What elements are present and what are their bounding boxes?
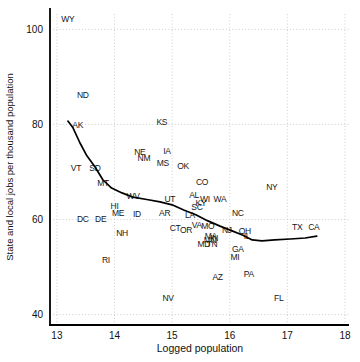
state-label-ME: ME xyxy=(112,208,125,218)
y-tick-label-100: 100 xyxy=(26,24,43,35)
state-label-RI: RI xyxy=(102,255,110,265)
state-label-MS: MS xyxy=(157,158,170,168)
state-label-VT: VT xyxy=(71,163,81,173)
state-label-NM: NM xyxy=(138,153,151,163)
state-label-TN: TN xyxy=(207,239,218,249)
state-label-AZ: AZ xyxy=(213,272,223,282)
state-label-WY: WY xyxy=(61,14,75,24)
y-tick-label-60: 60 xyxy=(32,214,44,225)
state-label-NH: NH xyxy=(116,228,128,238)
state-label-PA: PA xyxy=(244,269,255,279)
y-tick-labels: 406080100 xyxy=(26,24,43,320)
state-label-TX: TX xyxy=(292,222,303,232)
x-axis-title: Logged population xyxy=(157,342,244,354)
state-label-AR: AR xyxy=(159,208,170,218)
y-axis-title: State and local jobs per thousand popula… xyxy=(4,73,15,261)
state-label-MI: MI xyxy=(231,252,240,262)
state-label-WA: WA xyxy=(214,194,227,204)
state-label-IA: IA xyxy=(163,146,171,156)
x-tick-label-18: 18 xyxy=(339,330,351,341)
y-tick-label-80: 80 xyxy=(32,119,44,130)
state-label-DC: DC xyxy=(77,214,89,224)
state-label-OK: OK xyxy=(177,161,189,171)
state-label-FL: FL xyxy=(274,293,284,303)
state-label-CT: CT xyxy=(170,223,181,233)
x-tick-labels: 131415161718 xyxy=(51,330,351,341)
state-label-NC: NC xyxy=(232,208,244,218)
state-label-CO: CO xyxy=(196,177,209,187)
scatter-plot: 131415161718 406080100 WYNDAKKSNENMIAMSO… xyxy=(0,0,360,362)
state-label-OR: OR xyxy=(180,225,192,235)
x-tick-label-15: 15 xyxy=(167,330,179,341)
figure: 131415161718 406080100 WYNDAKKSNENMIAMSO… xyxy=(0,0,360,362)
state-label-KS: KS xyxy=(156,117,167,127)
state-label-NV: NV xyxy=(162,293,174,303)
state-label-CA: CA xyxy=(308,222,320,232)
y-tick-label-40: 40 xyxy=(32,309,44,320)
state-label-DE: DE xyxy=(95,214,107,224)
state-label-NY: NY xyxy=(266,182,278,192)
x-tick-label-17: 17 xyxy=(282,330,294,341)
state-label-ID: ID xyxy=(133,209,141,219)
state-labels: WYNDAKKSNENMIAMSOKVTSDMTWVCONYUTALWIKYWA… xyxy=(61,14,320,303)
x-tick-label-16: 16 xyxy=(224,330,236,341)
state-label-ND: ND xyxy=(77,90,89,100)
x-tick-label-13: 13 xyxy=(51,330,63,341)
x-tick-label-14: 14 xyxy=(109,330,121,341)
